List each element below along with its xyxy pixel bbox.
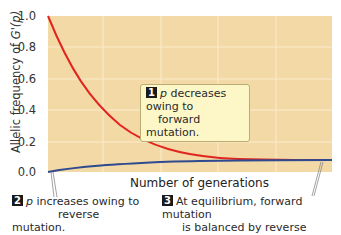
y-tick: 0.2: [6, 135, 36, 149]
callout-forward-mutation: 1p decreases owing to forward mutation.: [140, 84, 250, 142]
callout-reverse-mutation: 2p increases owing to reverse mutation.: [12, 193, 157, 235]
step-badge: 1: [146, 87, 157, 98]
y-tick: 1.0: [6, 9, 36, 23]
x-axis-label: Number of generations: [130, 176, 269, 190]
y-tick: 0.6: [6, 72, 36, 86]
y-tick: 0.0: [6, 165, 36, 179]
y-tick: 0.4: [6, 103, 36, 117]
callout-equilibrium: 3At equilibrium, forward mutation is bal…: [162, 193, 337, 235]
step-badge: 2: [12, 195, 23, 206]
y-tick: 0.8: [6, 40, 36, 54]
step-badge: 3: [162, 195, 173, 206]
